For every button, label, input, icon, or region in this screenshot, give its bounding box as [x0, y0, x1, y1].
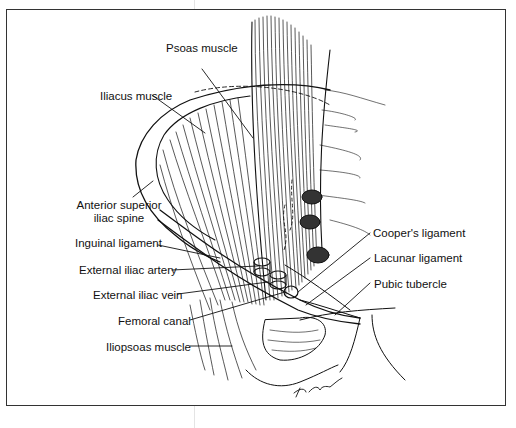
pubic-symphysis [340, 315, 405, 380]
sacrum-texture [318, 90, 385, 235]
leader-vein [178, 282, 268, 294]
iliacus-muscle-fibres [160, 98, 264, 310]
label-lacunar-ligament: Lacunar ligament [374, 252, 462, 265]
leader-asis [133, 181, 153, 197]
label-asis-line2: iliac spine [64, 212, 174, 225]
label-coopers-ligament: Cooper's ligament [373, 227, 465, 240]
label-psoas-muscle: Psoas muscle [166, 42, 238, 55]
inguinal-ligament-band [160, 210, 360, 318]
label-pubic-tubercle: Pubic tubercle [374, 278, 447, 291]
label-external-iliac-vein: External iliac vein [93, 289, 182, 302]
label-femoral-canal: Femoral canal [118, 315, 191, 328]
label-iliacus-muscle: Iliacus muscle [100, 90, 172, 103]
sacral-foramen [307, 247, 329, 263]
label-iliopsoas-muscle: Iliopsoas muscle [106, 341, 191, 354]
label-anterior-superior-iliac-spine: Anterior superior iliac spine [64, 199, 174, 225]
label-asis-line1: Anterior superior [64, 199, 174, 212]
nerve-dashed-line [195, 86, 330, 105]
obturator-region [263, 317, 326, 360]
label-inguinal-ligament: Inguinal ligament [75, 237, 162, 250]
sacral-foramen [302, 190, 322, 204]
leader-coopers [298, 233, 370, 292]
pelvis-lower-outline [246, 365, 338, 386]
sacral-foramen [300, 215, 320, 229]
leader-lacunar [306, 258, 370, 305]
label-external-iliac-artery: External iliac artery [79, 264, 177, 277]
obturator-hatching [268, 330, 320, 351]
artist-signature [294, 378, 342, 397]
